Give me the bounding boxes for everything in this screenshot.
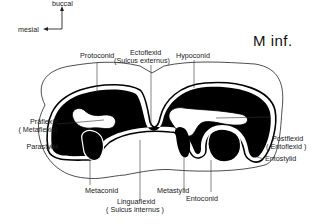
mesial-label: mesial	[18, 26, 39, 34]
label-parastylid: Parastylid	[4, 143, 58, 151]
orientation-indicator	[43, 6, 64, 31]
label-hypoconid: Hypoconid	[176, 52, 210, 60]
diagram-title: M inf.	[253, 32, 293, 49]
label-sulcus-externus: (Sulcus externus)	[114, 57, 170, 65]
label-metaconid: Metaconid	[85, 187, 118, 195]
label-metaflexid: ( Metaflexid)	[4, 126, 58, 134]
entoconid-lobe	[208, 129, 241, 162]
label-entoconid: Entoconid	[186, 195, 218, 203]
label-entoflexid: ( Entoflexid )	[266, 143, 306, 151]
mesial-arrowhead	[43, 27, 48, 31]
buccal-label: buccal	[52, 0, 73, 8]
label-metastylid: Metastylid	[157, 187, 189, 195]
label-sulcus-internus: ( Sulcus internus )	[106, 206, 164, 214]
label-entostylid: Entostylid	[265, 155, 296, 163]
label-protoconid: Protoconid	[80, 52, 114, 60]
